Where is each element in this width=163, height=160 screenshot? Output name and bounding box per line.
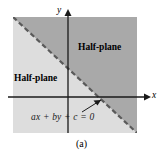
half-plane-figure: Half-plane Half-plane ax + by + c = 0 y … bbox=[0, 0, 163, 160]
upper-half-plane-label: Half-plane bbox=[78, 42, 121, 52]
figure-caption: (a) bbox=[0, 138, 163, 149]
y-axis-arrowhead bbox=[65, 9, 72, 16]
x-axis-label: x bbox=[152, 90, 156, 100]
x-axis-arrowhead bbox=[144, 94, 151, 101]
y-axis-label: y bbox=[57, 5, 61, 15]
boundary-equation-label: ax + by + c = 0 bbox=[31, 112, 94, 122]
lower-half-plane-label: Half-plane bbox=[14, 73, 57, 83]
